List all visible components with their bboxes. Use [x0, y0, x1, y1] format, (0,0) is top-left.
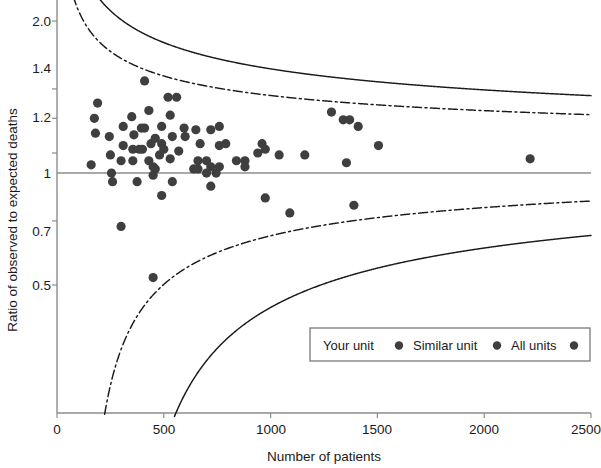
- scatter-point: [133, 177, 142, 186]
- scatter-point: [107, 168, 116, 177]
- scatter-point: [166, 154, 175, 163]
- scatter-point: [157, 191, 166, 200]
- scatter-point: [526, 154, 535, 163]
- scatter-point: [202, 168, 211, 177]
- scatter-point: [212, 168, 221, 177]
- scatter-point: [90, 114, 99, 123]
- x-tick-label: 0: [53, 422, 61, 437]
- y-axis-title: Ratio of observed to expected deaths: [5, 108, 20, 332]
- scatter-point: [119, 122, 128, 131]
- scatter-point: [129, 130, 138, 139]
- scatter-point: [87, 160, 96, 169]
- scatter-point: [149, 171, 158, 180]
- x-tick-label: 1000: [256, 422, 286, 437]
- scatter-point: [345, 115, 354, 124]
- scatter-point: [193, 164, 202, 173]
- scatter-point: [93, 98, 102, 107]
- scatter-point: [342, 158, 351, 167]
- funnel-plot-svg: 2.0 1.4 1.2 1 0.7 0.5 0 500 1000 1500 20…: [0, 0, 601, 468]
- y-tick-label: 1.2: [32, 110, 51, 125]
- scatter-point: [119, 141, 128, 150]
- legend[interactable]: Your unit Similar unit All units: [310, 328, 590, 361]
- scatter-point: [128, 156, 137, 165]
- scatter-point: [108, 177, 117, 186]
- scatter-point: [166, 111, 175, 120]
- funnel-plot-figure: 2.0 1.4 1.2 1 0.7 0.5 0 500 1000 1500 20…: [0, 0, 601, 468]
- y-tick-label: 2.0: [32, 14, 51, 29]
- scatter-point: [253, 148, 262, 157]
- scatter-point: [374, 141, 383, 150]
- scatter-point: [179, 123, 188, 132]
- scatter-point: [232, 156, 241, 165]
- scatter-point: [168, 177, 177, 186]
- scatter-point: [327, 107, 336, 116]
- scatter-point: [163, 93, 172, 102]
- scatter-point: [140, 123, 149, 132]
- scatter-point: [116, 222, 125, 231]
- scatter-point: [157, 122, 166, 131]
- x-tick-label: 500: [153, 422, 176, 437]
- scatter-point: [193, 156, 202, 165]
- y-tick-label: 1: [43, 166, 51, 181]
- x-tick-label: 1500: [362, 422, 392, 437]
- legend-marker-your-unit-icon: [395, 341, 403, 349]
- scatter-point: [349, 201, 358, 210]
- scatter-point: [106, 150, 115, 159]
- scatter-point: [138, 145, 147, 154]
- scatter-point: [206, 182, 215, 191]
- x-tick-label: 2000: [469, 422, 499, 437]
- x-tick-label: 2500: [571, 422, 601, 437]
- y-tick-label: 0.5: [32, 278, 51, 293]
- scatter-point: [146, 139, 155, 148]
- scatter-point: [354, 122, 363, 131]
- scatter-point: [215, 122, 224, 131]
- scatter-point: [127, 112, 136, 121]
- scatter-point: [105, 132, 114, 141]
- scatter-point: [221, 139, 230, 148]
- scatter-point: [140, 76, 149, 85]
- legend-marker-similar-unit-icon: [493, 341, 501, 349]
- scatter-point: [168, 132, 177, 141]
- scatter-point: [196, 139, 205, 148]
- legend-label-your-unit: Your unit: [323, 338, 374, 353]
- scatter-point: [155, 150, 164, 159]
- scatter-point: [149, 273, 158, 282]
- scatter-point: [206, 125, 215, 134]
- scatter-point: [144, 106, 153, 115]
- scatter-point: [116, 156, 125, 165]
- scatter-point: [275, 150, 284, 159]
- scatter-point: [300, 150, 309, 159]
- scatter-point: [261, 193, 270, 202]
- scatter-point: [240, 162, 249, 171]
- chart-background: [0, 0, 601, 468]
- scatter-point: [285, 208, 294, 217]
- legend-label-similar-unit: Similar unit: [413, 338, 478, 353]
- scatter-point: [174, 147, 183, 156]
- scatter-point: [181, 132, 190, 141]
- scatter-point: [191, 125, 200, 134]
- scatter-point: [91, 129, 100, 138]
- legend-label-all-units: All units: [511, 338, 557, 353]
- y-tick-label: 1.4: [32, 61, 51, 76]
- y-tick-label: 0.7: [32, 224, 51, 239]
- x-axis-title: Number of patients: [267, 449, 381, 464]
- scatter-point: [172, 93, 181, 102]
- legend-marker-all-units-icon: [570, 341, 578, 349]
